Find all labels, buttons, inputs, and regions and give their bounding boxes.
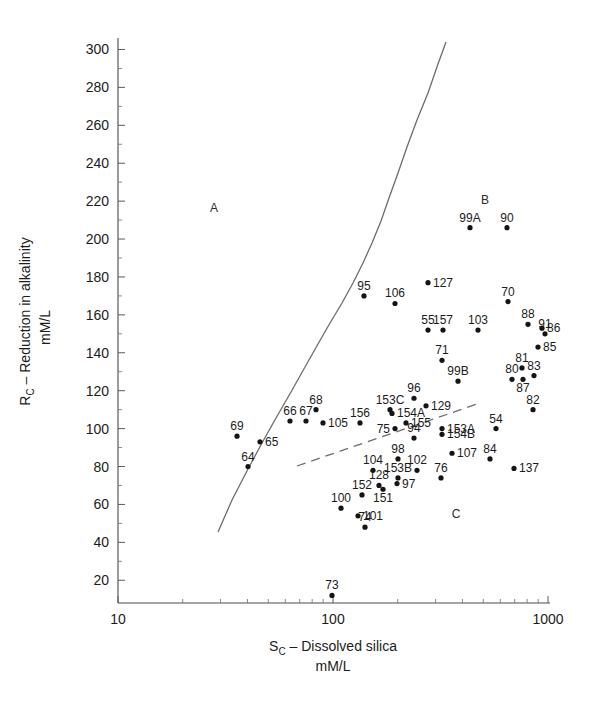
data-point [287,418,292,423]
data-point [303,418,308,423]
x-axis-units: mM/L [316,658,351,674]
data-point [509,377,514,382]
data-point [439,358,444,363]
data-point [313,407,318,412]
y-axis-tick-label: 140 [86,345,110,361]
y-axis-tick-label: 200 [86,231,110,247]
data-point-label: 152 [352,478,372,492]
region-label-c: C [452,507,461,521]
y-axis-tick-label: 160 [86,307,110,323]
data-point [519,365,524,370]
data-point-label: 107 [457,446,477,460]
data-point [439,426,444,431]
chart-canvas: 3002802602402202001801601401201008060402… [0,0,595,707]
data-point-label: 99A [459,211,480,225]
y-axis-tick-label: 100 [86,421,110,437]
data-point [394,481,399,486]
data-point [487,456,492,461]
data-point [425,280,430,285]
data-point-label: 137 [519,461,539,475]
data-point [449,451,454,456]
data-point-label: 74 [358,510,372,524]
data-point-label: 95 [357,279,371,293]
x-axis-tick-label: 1000 [532,611,563,627]
data-point [455,379,460,384]
data-point-label: 86 [547,321,561,335]
data-point-label: 97 [402,477,416,491]
data-point-label: 105 [328,416,348,430]
y-axis-tick-label: 300 [86,41,110,57]
data-point [329,593,334,598]
data-point-label: 67 [299,404,313,418]
data-point-label: 73 [325,578,339,592]
data-point-label: 127 [433,276,453,290]
data-point-label: 98 [391,442,405,456]
axis-titles-group: SC – Dissolved silicamM/LRC – Reduction … [17,237,397,674]
data-point-label: 157 [433,313,453,327]
data-point [525,322,530,327]
data-point [411,435,416,440]
data-point [425,327,430,332]
data-point-labels-group: 107917099A901279510655157103888685718183… [230,211,560,593]
y-axis-tick-label: 120 [86,383,110,399]
data-point-label: 128 [369,468,389,482]
data-point-label: 69 [230,419,244,433]
data-point [338,506,343,511]
data-point [411,396,416,401]
data-point-label: 94 [407,421,421,435]
y-axis-units: mM/L [37,310,53,345]
y-axis-tick-label: 40 [93,534,109,550]
data-point [357,420,362,425]
data-point-label: 106 [385,286,405,300]
data-point [467,225,472,230]
y-axis-tick-label: 20 [93,572,109,588]
data-point-label: 103 [468,313,488,327]
data-point [505,299,510,304]
y-axis-tick-label: 220 [86,193,110,209]
data-point-label: 54 [489,412,503,426]
data-point [439,432,444,437]
data-point-label: 83 [527,359,541,373]
data-point [389,411,394,416]
x-axis-tick-label: 100 [321,611,345,627]
y-axis-tick-label: 60 [93,496,109,512]
data-point-label: 75 [377,422,391,436]
data-point [245,464,250,469]
data-point-label: 64 [241,450,255,464]
scatter-plot-figure: 3002802602402202001801601401201008060402… [0,0,595,707]
data-point-label: 65 [265,435,279,449]
data-point [257,439,262,444]
data-point-label: 90 [500,211,514,225]
data-point-label: 82 [526,393,540,407]
data-point-label: 88 [521,307,535,321]
data-point-label: 66 [283,404,297,418]
data-point [414,468,419,473]
data-point-label: 154B [447,427,475,441]
data-point [475,327,480,332]
data-point [438,475,443,480]
data-point [511,466,516,471]
data-point [359,492,364,497]
data-point [392,301,397,306]
data-point-label: 71 [435,343,449,357]
data-point-label: 129 [431,399,451,413]
data-point [493,426,498,431]
y-axis-tick-label: 80 [93,459,109,475]
data-point [392,426,397,431]
data-point [530,407,535,412]
data-point-label: 104 [363,453,383,467]
data-point [440,327,445,332]
data-point [361,293,366,298]
data-point [320,420,325,425]
y-axis-tick-label: 280 [86,79,110,95]
data-point-label: 151 [373,491,393,505]
data-point-label: 84 [483,442,497,456]
y-axis-tick-label: 180 [86,269,110,285]
data-point-label: 70 [501,285,515,299]
data-point-label: 100 [331,491,351,505]
region-label-b: B [481,193,489,207]
tick-labels-group: 3002802602402202001801601401201008060402… [86,41,564,627]
data-point [234,434,239,439]
data-point [504,225,509,230]
x-axis-tick-label: 10 [110,611,126,627]
